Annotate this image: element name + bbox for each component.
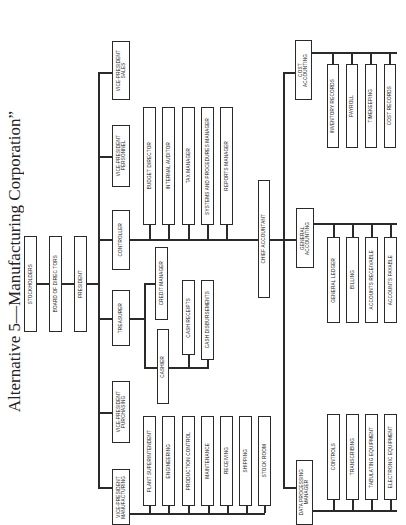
chart-title-text: Alternative 5—Manufacturing Corporation” xyxy=(5,111,25,412)
connector xyxy=(98,156,112,158)
org-box-maintenance: MAINTENANCE xyxy=(201,416,214,506)
connector xyxy=(144,367,157,369)
org-box-general-ledger: GENERAL LEDGER xyxy=(327,237,340,323)
connector xyxy=(313,510,397,512)
connector xyxy=(283,239,296,241)
org-box-accounts-receivable: ACCOUNTS RECEIVABLE xyxy=(365,237,378,323)
org-box-engineering: ENGINEERING xyxy=(162,416,175,506)
org-box-cash-disbursements: CASH DISBURSEMENTS xyxy=(201,280,214,360)
connector xyxy=(351,52,353,64)
connector xyxy=(37,283,49,285)
org-box-president: PRESIDENT xyxy=(74,236,87,332)
connector xyxy=(312,52,397,54)
connector xyxy=(98,487,112,489)
org-box-cashier: CASHIER xyxy=(157,329,169,404)
connector xyxy=(390,223,392,237)
connector xyxy=(207,360,209,367)
org-box-shipping: SHIPPING xyxy=(239,416,252,506)
org-box-internal-auditor: INTERNAL AUDITOR xyxy=(162,107,175,225)
connector xyxy=(283,72,285,488)
connector xyxy=(283,487,296,489)
connector xyxy=(226,225,228,239)
connector xyxy=(390,500,392,510)
connector xyxy=(149,225,151,239)
org-box-board-of-directors: BOARD OF DIREC TORS xyxy=(49,236,62,332)
connector xyxy=(332,52,334,64)
org-box-chief-accountant: CHIEF ACCOUNTANT xyxy=(258,180,270,298)
org-box-electronic-equipment: ELECTRONIC EQUIPMENT xyxy=(384,414,397,500)
org-box-timekeeping: TIMEKEEPING xyxy=(365,64,377,148)
connector xyxy=(333,500,335,510)
connector xyxy=(62,283,74,285)
connector xyxy=(169,367,209,369)
connector xyxy=(352,500,354,510)
org-box-cost-records: COST RECORDS xyxy=(384,64,396,148)
org-box-vp-personnel: VICE-PRESIDENT PERSONNEL xyxy=(112,125,130,187)
connector xyxy=(168,506,170,513)
org-box-controls: CONTROLS xyxy=(327,414,340,500)
org-box-accounts-payable: ACCOUNTS PAYABLE xyxy=(384,237,397,323)
org-box-tabulating-equipment: TABULATING EQUIPMENT xyxy=(365,414,378,500)
org-box-systems-procedures-manager: SYSTEMS AND PROCEDURES MANAGER xyxy=(201,107,214,225)
connector xyxy=(98,72,112,74)
connector xyxy=(87,283,98,285)
connector xyxy=(227,506,229,513)
connector xyxy=(168,225,170,239)
connector xyxy=(188,355,190,367)
connector xyxy=(314,223,397,225)
org-box-payroll: PAYROLL xyxy=(346,64,358,148)
org-box-treasurer: TREASURER xyxy=(112,290,130,346)
org-box-stock-room: STOCK ROOM xyxy=(258,416,271,506)
org-box-controller: CONTROLLER xyxy=(112,210,130,270)
connector xyxy=(208,506,210,513)
org-box-stockholders: STOCKHOLDERS xyxy=(24,236,37,332)
connector xyxy=(188,225,190,239)
connector xyxy=(246,506,248,513)
org-box-cash-receipts: CASH RECEIPTS xyxy=(182,280,195,355)
org-box-transcribing: TRANSCRIBING xyxy=(346,414,359,500)
connector xyxy=(371,500,373,510)
org-box-cost-accounting: COST ACCOUNTING xyxy=(295,40,312,100)
connector xyxy=(144,283,146,368)
org-box-plant-superintendent: PLANT SUPERINTENDENT xyxy=(143,416,156,506)
connector xyxy=(188,506,190,513)
org-box-production-control: PRODUCTION CONTROL xyxy=(182,416,195,506)
org-box-general-accounting: GENERAL ACCOUNTING xyxy=(296,208,314,268)
connector xyxy=(370,52,372,64)
org-box-vp-sales: VICE-PRESIDENT SALES xyxy=(112,41,130,100)
org-box-budget-director: BUDGET DIRECTOR xyxy=(143,107,156,225)
connector xyxy=(130,318,144,320)
connector xyxy=(98,72,100,488)
connector xyxy=(389,52,391,64)
org-box-inventory-records: INVENTORY RECORDS xyxy=(327,64,339,148)
connector xyxy=(98,412,112,414)
org-box-credit-manager: CREDIT MANAGER xyxy=(155,247,168,320)
org-box-data-processing-manager: DATA PROCESSING MANAGER xyxy=(296,460,313,525)
connector xyxy=(98,318,112,320)
org-box-vp-manufacturing: VICE-PRESIDENT MANUFACTURING xyxy=(112,469,130,525)
org-box-tax-manager: TAX MANAGER xyxy=(182,107,195,225)
connector xyxy=(264,506,266,513)
connector xyxy=(333,223,335,237)
connector xyxy=(352,223,354,237)
org-box-vp-purchasing: VICE-PRESIDENT PURCHASING xyxy=(112,381,130,443)
connector xyxy=(144,283,155,285)
org-box-receiving: RECEIVING xyxy=(220,416,233,506)
connector xyxy=(283,72,295,74)
connector xyxy=(207,225,209,239)
connector xyxy=(371,223,373,237)
org-box-billing: BILLING xyxy=(346,237,359,323)
connector xyxy=(149,506,151,513)
org-box-reports-manager: REPORTS MANAGER xyxy=(220,107,233,225)
connector xyxy=(98,239,112,241)
connector xyxy=(130,513,265,515)
